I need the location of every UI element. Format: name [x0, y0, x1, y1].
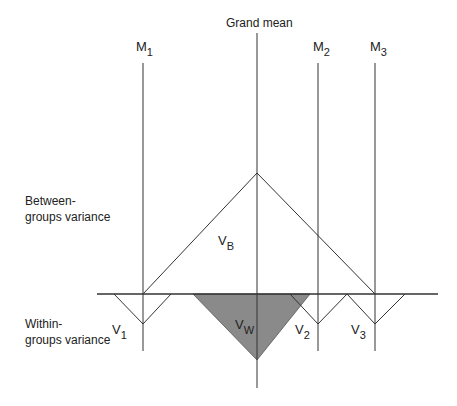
between-label-line1: Between-	[25, 194, 76, 209]
vw-text: V	[235, 317, 244, 332]
m3-label: M3	[370, 40, 387, 59]
v3-sub: 3	[360, 329, 366, 341]
within-label-line1: Within-	[25, 317, 62, 332]
m2-label: M2	[313, 40, 330, 59]
v1-label: V1	[112, 323, 127, 342]
v3-text: V	[351, 322, 360, 337]
vw-sub: W	[244, 324, 254, 336]
m2-text: M	[313, 39, 324, 54]
between-variance-triangle	[143, 173, 375, 294]
v3-triangle	[347, 294, 405, 324]
v2-text: V	[295, 322, 304, 337]
vb-sub: B	[227, 240, 234, 252]
m1-label: M1	[136, 40, 153, 59]
v1-text: V	[112, 322, 121, 337]
between-label-line2: groups variance	[25, 210, 110, 225]
within-label-line2: groups variance	[25, 333, 110, 348]
vb-label: VB	[218, 234, 234, 253]
v2-label: V2	[295, 323, 310, 342]
vw-label: VW	[235, 318, 254, 337]
m3-text: M	[370, 39, 381, 54]
vb-text: V	[218, 233, 227, 248]
m1-text: M	[136, 39, 147, 54]
v1-sub: 1	[121, 329, 127, 341]
v3-label: V3	[351, 323, 366, 342]
grand-mean-label: Grand mean	[226, 16, 293, 31]
m2-sub: 2	[324, 46, 330, 58]
m1-sub: 1	[147, 46, 153, 58]
m3-sub: 3	[381, 46, 387, 58]
v2-sub: 2	[304, 329, 310, 341]
